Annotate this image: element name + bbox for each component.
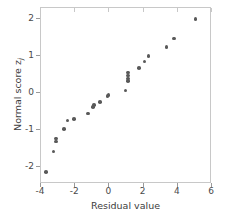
data-point (92, 103, 96, 107)
plot-area (40, 7, 211, 183)
x-tick-mark-top (143, 8, 144, 12)
data-point (44, 170, 48, 174)
x-tick-label: -4 (29, 186, 51, 197)
x-tick-label: 0 (97, 186, 119, 197)
y-tick-mark (36, 129, 40, 130)
x-tick-label: 2 (132, 186, 154, 197)
x-tick-mark-top (177, 8, 178, 12)
data-point (62, 127, 66, 131)
y-tick-mark (36, 18, 40, 19)
data-point (98, 100, 102, 104)
x-tick-mark-top (40, 8, 41, 12)
x-tick-mark-top (74, 8, 75, 12)
x-tick-mark-top (108, 8, 109, 12)
x-tick-label: 4 (166, 186, 188, 197)
y-axis-label-text: Normal score z (12, 60, 23, 131)
data-point (165, 45, 169, 49)
x-tick-mark-top (211, 8, 212, 12)
y-tick-mark (36, 92, 40, 93)
data-point (72, 117, 76, 121)
y-tick-mark (36, 55, 40, 56)
y-tick-mark (36, 166, 40, 167)
x-axis-label: Residual value (40, 200, 211, 211)
data-point (126, 77, 130, 81)
y-axis-label: Normal score zj (12, 15, 25, 175)
y-axis-label-subscript: j (17, 58, 25, 60)
data-point (86, 112, 90, 116)
data-point (107, 93, 111, 97)
x-tick-label: 6 (200, 186, 222, 197)
data-point (137, 66, 141, 70)
normal-probability-plot-figure: -4-20246 210-1-2 Residual value Normal s… (0, 0, 226, 218)
x-tick-label: -2 (63, 186, 85, 197)
